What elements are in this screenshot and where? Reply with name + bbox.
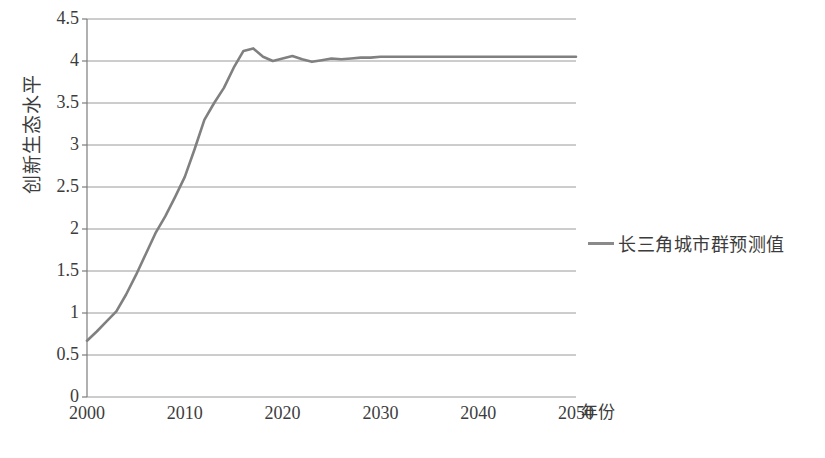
series-line-0 bbox=[87, 48, 576, 340]
legend-label: 长三角城市群预测值 bbox=[618, 230, 785, 256]
x-axis-tick-label: 2030 bbox=[345, 404, 415, 422]
legend-line-swatch bbox=[588, 242, 614, 245]
legend: 长三角城市群预测值 bbox=[588, 230, 785, 256]
x-axis-tick-label: 2020 bbox=[248, 404, 318, 422]
y-axis-tick-label: 0.5 bbox=[35, 345, 79, 363]
y-axis-tick-label: 2 bbox=[35, 219, 79, 237]
y-axis-tick-label: 1.5 bbox=[35, 261, 79, 279]
y-axis-tick-label: 1 bbox=[35, 303, 79, 321]
x-axis-tick-label: 2000 bbox=[52, 404, 122, 422]
chart-container: 创新生态水平 00.511.522.533.544.5 200020102020… bbox=[0, 0, 825, 458]
y-axis-tick-label: 3 bbox=[35, 135, 79, 153]
y-axis-tick-label: 4 bbox=[35, 51, 79, 69]
y-axis-tick-label: 3.5 bbox=[35, 93, 79, 111]
x-axis-unit-label: 年份 bbox=[581, 398, 615, 423]
y-axis-tick-label: 4.5 bbox=[35, 9, 79, 27]
plot-area bbox=[0, 0, 825, 458]
x-axis-tick-label: 2010 bbox=[150, 404, 220, 422]
x-axis-tick-label: 2040 bbox=[443, 404, 513, 422]
y-axis-tick-label: 2.5 bbox=[35, 177, 79, 195]
